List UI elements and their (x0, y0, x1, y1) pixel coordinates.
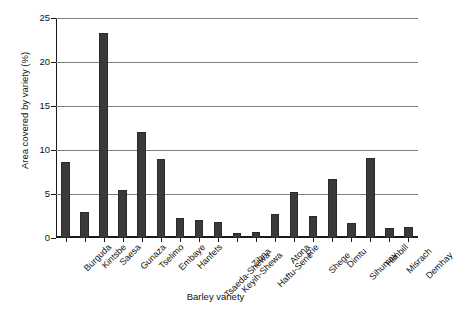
bar (61, 162, 70, 238)
bar (176, 218, 185, 238)
bars-group (56, 18, 418, 238)
y-tick-label: 10 (26, 145, 50, 155)
y-tick-label: 20 (26, 57, 50, 67)
bar (99, 33, 108, 238)
bar (157, 159, 166, 238)
bar (385, 228, 394, 238)
bar (137, 132, 146, 238)
bar (80, 212, 89, 238)
y-tick-label: 25 (26, 13, 50, 23)
bar (404, 227, 413, 238)
y-tick-label: 0 (26, 233, 50, 243)
y-tick-label: 15 (26, 101, 50, 111)
bar (195, 220, 204, 238)
y-tick-label: 5 (26, 189, 50, 199)
bar (366, 158, 375, 238)
plot-area: 0510152025 (56, 18, 418, 238)
y-tick-mark (51, 238, 56, 239)
bar (214, 222, 223, 238)
bar (347, 223, 356, 238)
bar (271, 214, 280, 238)
bar (290, 192, 299, 238)
bar (309, 216, 318, 238)
bar (328, 179, 337, 238)
bar (118, 190, 127, 238)
y-axis-title: Area covered by variety (%) (19, 11, 30, 211)
x-tick-label: Dimtu (345, 246, 369, 270)
x-axis-title: Barley variety (0, 291, 431, 302)
